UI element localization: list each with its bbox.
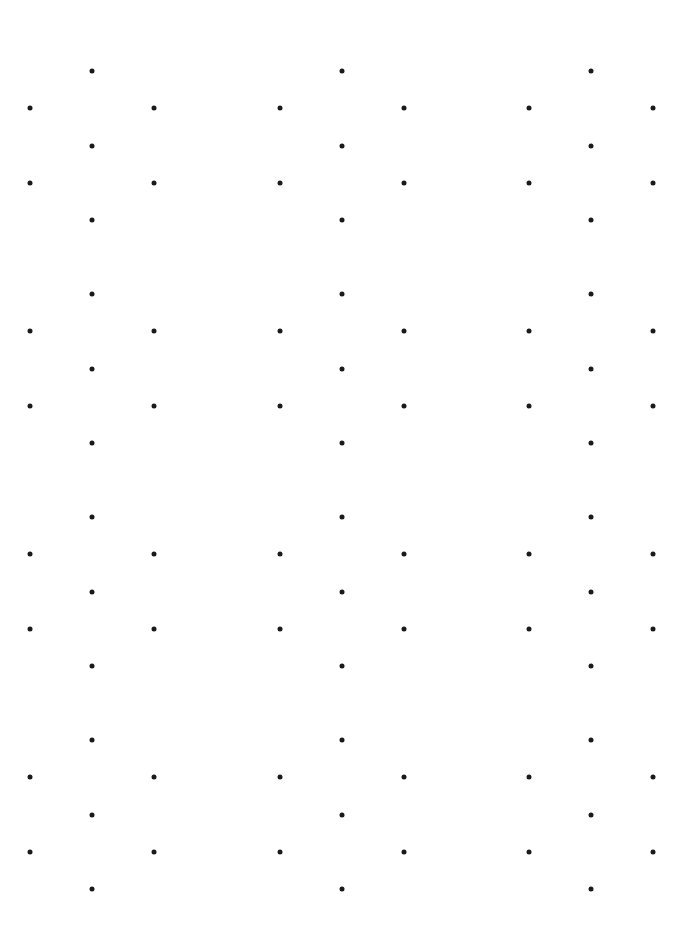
dot-upper-left xyxy=(278,329,283,334)
dot-upper-left xyxy=(278,106,283,111)
dot-top xyxy=(90,738,95,743)
dot-lower-right xyxy=(651,627,656,632)
dot-lower-left xyxy=(527,627,532,632)
dot-upper-right xyxy=(402,552,407,557)
dot-upper-right xyxy=(651,775,656,780)
dot-top xyxy=(589,515,594,520)
dot-upper-right xyxy=(152,329,157,334)
dot-upper-right xyxy=(152,106,157,111)
dot-lower-left xyxy=(28,850,33,855)
dot-lower-right xyxy=(152,627,157,632)
dot-grid-page xyxy=(0,0,692,952)
dot-bottom xyxy=(340,441,345,446)
dot-upper-left xyxy=(278,775,283,780)
dot-upper-left xyxy=(527,775,532,780)
dot-bottom xyxy=(340,218,345,223)
dot-top xyxy=(90,69,95,74)
dot-lower-left xyxy=(28,627,33,632)
dot-upper-right xyxy=(402,106,407,111)
dot-upper-left xyxy=(28,552,33,557)
dot-upper-left xyxy=(28,775,33,780)
dot-upper-right xyxy=(152,775,157,780)
dot-upper-right xyxy=(152,552,157,557)
dot-lower-left xyxy=(278,404,283,409)
dot-center xyxy=(589,590,594,595)
dot-lower-right xyxy=(402,181,407,186)
dot-lower-left xyxy=(28,181,33,186)
dot-top xyxy=(340,69,345,74)
dot-lower-right xyxy=(152,850,157,855)
dot-lower-right xyxy=(651,404,656,409)
dot-top xyxy=(340,515,345,520)
dot-upper-right xyxy=(651,106,656,111)
dot-top xyxy=(589,738,594,743)
dot-bottom xyxy=(340,664,345,669)
dot-upper-right xyxy=(402,329,407,334)
dot-top xyxy=(340,738,345,743)
dot-bottom xyxy=(589,218,594,223)
dot-upper-left xyxy=(527,106,532,111)
dot-lower-left xyxy=(527,181,532,186)
dot-bottom xyxy=(90,664,95,669)
dot-lower-left xyxy=(527,404,532,409)
dot-bottom xyxy=(90,218,95,223)
dot-center xyxy=(589,144,594,149)
dot-center xyxy=(340,144,345,149)
dot-top xyxy=(589,292,594,297)
dot-center xyxy=(340,590,345,595)
dot-center xyxy=(90,813,95,818)
dot-bottom xyxy=(589,441,594,446)
dot-upper-left xyxy=(527,552,532,557)
dot-lower-right xyxy=(651,181,656,186)
dot-center xyxy=(90,367,95,372)
dot-lower-right xyxy=(651,850,656,855)
dot-bottom xyxy=(90,441,95,446)
dot-center xyxy=(589,813,594,818)
dot-lower-right xyxy=(152,404,157,409)
dot-top xyxy=(90,515,95,520)
dot-top xyxy=(340,292,345,297)
dot-upper-right xyxy=(651,552,656,557)
dot-top xyxy=(90,292,95,297)
dot-upper-left xyxy=(278,552,283,557)
dot-lower-left xyxy=(278,850,283,855)
dot-center xyxy=(589,367,594,372)
dot-bottom xyxy=(589,887,594,892)
dot-bottom xyxy=(340,887,345,892)
dot-center xyxy=(340,813,345,818)
dot-upper-left xyxy=(28,106,33,111)
dot-lower-right xyxy=(402,404,407,409)
dot-center xyxy=(340,367,345,372)
dot-upper-right xyxy=(651,329,656,334)
dot-lower-left xyxy=(278,181,283,186)
dot-lower-left xyxy=(28,404,33,409)
dot-center xyxy=(90,144,95,149)
dot-lower-left xyxy=(527,850,532,855)
dot-bottom xyxy=(90,887,95,892)
dot-upper-left xyxy=(527,329,532,334)
dot-upper-left xyxy=(28,329,33,334)
dot-center xyxy=(90,590,95,595)
dot-bottom xyxy=(589,664,594,669)
dot-lower-left xyxy=(278,627,283,632)
dot-lower-right xyxy=(402,627,407,632)
dot-upper-right xyxy=(402,775,407,780)
dot-lower-right xyxy=(152,181,157,186)
dot-lower-right xyxy=(402,850,407,855)
dot-top xyxy=(589,69,594,74)
